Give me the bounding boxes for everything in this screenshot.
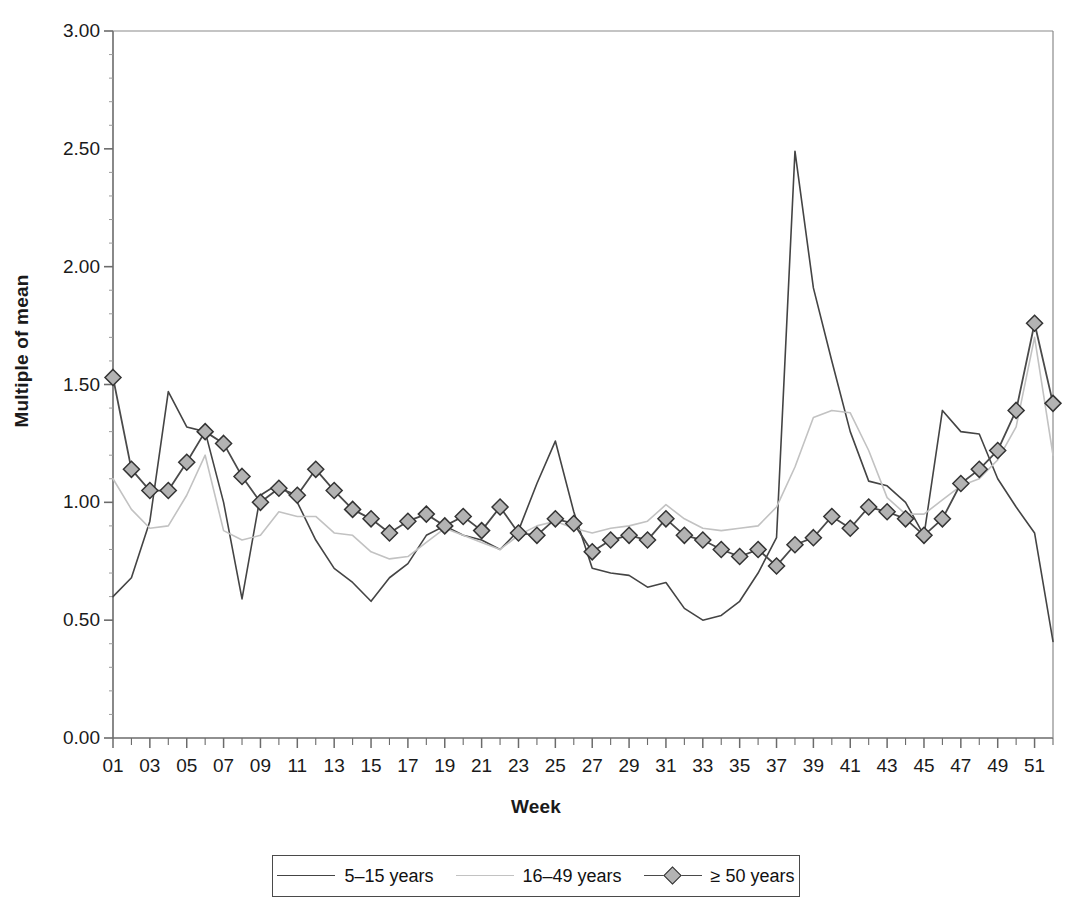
data-point-marker bbox=[455, 508, 471, 524]
x-tick-label: 37 bbox=[757, 756, 797, 775]
series-line bbox=[113, 151, 1053, 641]
y-axis-title: Multiple of mean bbox=[11, 251, 33, 451]
chart-figure: Multiple of mean 0.000.501.001.502.002.5… bbox=[0, 0, 1072, 924]
data-point-marker bbox=[713, 541, 729, 557]
data-point-marker bbox=[953, 475, 969, 491]
chart-legend: 5–15 years16–49 years≥ 50 years bbox=[272, 855, 800, 897]
x-tick-label: 25 bbox=[535, 756, 575, 775]
y-tick-label: 1.00 bbox=[22, 492, 100, 511]
legend-label: ≥ 50 years bbox=[711, 866, 795, 887]
data-point-marker bbox=[1045, 395, 1061, 411]
legend-swatch bbox=[277, 869, 335, 883]
data-point-marker bbox=[234, 468, 250, 484]
y-tick-label: 2.00 bbox=[22, 257, 100, 276]
data-point-marker bbox=[289, 487, 305, 503]
x-tick-label: 23 bbox=[498, 756, 538, 775]
data-point-marker bbox=[492, 499, 508, 515]
legend-label: 5–15 years bbox=[344, 866, 433, 887]
legend-swatch bbox=[456, 869, 514, 883]
x-tick-label: 51 bbox=[1015, 756, 1055, 775]
y-tick-label: 3.00 bbox=[22, 21, 100, 40]
data-point-marker bbox=[474, 523, 490, 539]
x-tick-label: 31 bbox=[646, 756, 686, 775]
data-point-marker bbox=[695, 532, 711, 548]
legend-line-icon bbox=[277, 875, 335, 876]
data-point-marker bbox=[252, 494, 268, 510]
data-point-marker bbox=[879, 504, 895, 520]
series-3 bbox=[105, 315, 1061, 574]
data-series-layer bbox=[105, 151, 1061, 641]
y-tick-label: 1.50 bbox=[22, 375, 100, 394]
x-tick-label: 17 bbox=[388, 756, 428, 775]
x-tick-label: 49 bbox=[978, 756, 1018, 775]
series-1 bbox=[113, 151, 1053, 641]
legend-entry: 16–49 years bbox=[445, 866, 633, 887]
legend-label: 16–49 years bbox=[523, 866, 622, 887]
data-point-marker bbox=[381, 525, 397, 541]
x-tick-label: 05 bbox=[167, 756, 207, 775]
legend-swatch bbox=[644, 869, 702, 883]
data-point-marker bbox=[271, 480, 287, 496]
x-tick-label: 07 bbox=[204, 756, 244, 775]
data-point-marker bbox=[216, 435, 232, 451]
data-point-marker bbox=[1008, 402, 1024, 418]
x-tick-label: 21 bbox=[462, 756, 502, 775]
data-point-marker bbox=[510, 525, 526, 541]
legend-entry: 5–15 years bbox=[266, 866, 444, 887]
legend-entry: ≥ 50 years bbox=[633, 866, 806, 887]
data-point-marker bbox=[584, 544, 600, 560]
axis-lines bbox=[113, 31, 1053, 738]
x-tick-label: 11 bbox=[277, 756, 317, 775]
y-tick-label: 0.50 bbox=[22, 610, 100, 629]
data-point-marker bbox=[105, 369, 121, 385]
x-tick-label: 43 bbox=[867, 756, 907, 775]
data-point-marker bbox=[1027, 315, 1043, 331]
x-tick-label: 19 bbox=[425, 756, 465, 775]
data-point-marker bbox=[603, 532, 619, 548]
x-axis-title: Week bbox=[0, 796, 1072, 818]
x-tick-label: 03 bbox=[130, 756, 170, 775]
x-tick-label: 33 bbox=[683, 756, 723, 775]
x-axis-ticks bbox=[113, 738, 1053, 748]
x-tick-label: 01 bbox=[93, 756, 133, 775]
x-tick-label: 29 bbox=[609, 756, 649, 775]
legend-diamond-icon bbox=[663, 866, 681, 884]
data-point-marker bbox=[400, 513, 416, 529]
y-tick-label: 0.00 bbox=[22, 728, 100, 747]
legend-line-icon bbox=[456, 875, 514, 876]
y-tick-label: 2.50 bbox=[22, 139, 100, 158]
data-point-marker bbox=[732, 549, 748, 565]
data-point-marker bbox=[621, 527, 637, 543]
x-tick-label: 15 bbox=[351, 756, 391, 775]
x-tick-label: 39 bbox=[793, 756, 833, 775]
x-tick-label: 41 bbox=[830, 756, 870, 775]
data-point-marker bbox=[363, 511, 379, 527]
data-point-marker bbox=[179, 454, 195, 470]
x-tick-label: 27 bbox=[572, 756, 612, 775]
plot-canvas bbox=[0, 0, 1072, 924]
x-tick-label: 09 bbox=[240, 756, 280, 775]
x-tick-label: 47 bbox=[941, 756, 981, 775]
x-tick-label: 45 bbox=[904, 756, 944, 775]
data-point-marker bbox=[197, 424, 213, 440]
x-tick-label: 35 bbox=[720, 756, 760, 775]
x-tick-label: 13 bbox=[314, 756, 354, 775]
data-point-marker bbox=[437, 518, 453, 534]
data-point-marker bbox=[160, 483, 176, 499]
data-point-marker bbox=[418, 506, 434, 522]
